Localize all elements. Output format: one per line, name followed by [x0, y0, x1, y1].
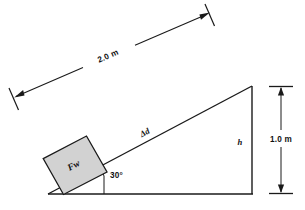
height-symbol-label: h [238, 137, 243, 147]
height-dimension-arrowhead-top [278, 87, 284, 96]
height-value-label: 1.0 m [270, 135, 292, 144]
height-dimension: 1.0 m [269, 87, 293, 194]
ramp-length-arrowhead-left [14, 90, 24, 97]
figure-canvas: 2.0 m 30° Δd h [0, 0, 305, 210]
ramp-length-dimension: 2.0 m [9, 4, 215, 110]
inclined-plane-diagram: 2.0 m 30° Δd h [0, 0, 305, 210]
ramp-length-label: 2.0 m [96, 48, 120, 65]
ramp-length-arrowhead-right [199, 13, 209, 20]
ramp-length-dimension-line-left [16, 68, 83, 97]
ramp-length-tick-left [9, 88, 19, 110]
ramp-length-dimension-line-right [135, 14, 207, 45]
angle-label: 30° [110, 171, 123, 180]
height-dimension-arrowhead-bottom [278, 185, 284, 194]
block-on-incline: Fw [43, 136, 107, 195]
displacement-label: Δd [137, 125, 152, 139]
